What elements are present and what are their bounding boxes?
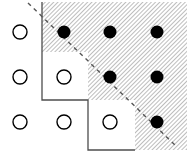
lattice-point-open	[13, 70, 27, 84]
lattice-point-open	[13, 115, 27, 129]
lattice-point-open	[57, 115, 71, 129]
lattice-point-filled	[151, 71, 164, 84]
lattice-point-open	[103, 115, 117, 129]
lattice-point-filled	[58, 26, 71, 39]
lattice-point-filled	[104, 71, 117, 84]
figure-container	[0, 0, 187, 152]
lattice-staircase-figure	[0, 0, 187, 152]
lattice-point-filled	[151, 116, 164, 129]
lattice-point-filled	[104, 26, 117, 39]
lattice-point-open	[13, 25, 27, 39]
lattice-point-filled	[151, 26, 164, 39]
lattice-point-open	[57, 70, 71, 84]
